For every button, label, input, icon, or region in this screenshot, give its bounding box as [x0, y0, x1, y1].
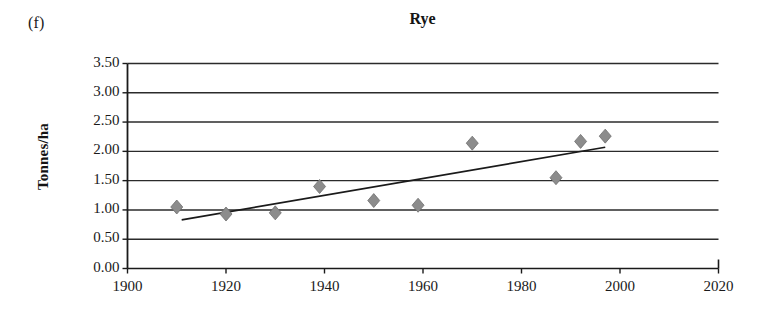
y-tick-label: 0.50	[64, 229, 120, 246]
x-tick-label: 2000	[590, 278, 650, 295]
x-tick-label: 1920	[196, 278, 256, 295]
y-tick-label: 1.00	[64, 200, 120, 217]
x-tick-label: 2020	[689, 278, 749, 295]
data-point-marker	[368, 194, 380, 208]
data-markers-group	[171, 129, 611, 221]
x-tick-label: 1940	[295, 278, 355, 295]
y-tick-label: 1.50	[64, 171, 120, 188]
data-point-marker	[550, 171, 562, 185]
data-point-marker	[220, 207, 232, 221]
y-tick-label: 0.00	[64, 259, 120, 276]
x-tick-label: 1900	[98, 278, 158, 295]
axis-lines-group	[128, 64, 719, 269]
x-tick-label: 1980	[492, 278, 552, 295]
y-tick-label: 2.00	[64, 141, 120, 158]
x-tick-label: 1960	[393, 278, 453, 295]
data-point-marker	[599, 129, 611, 143]
y-tick-label: 3.50	[64, 54, 120, 71]
data-point-marker	[466, 136, 478, 150]
figure-panel: (f) Rye Tonnes/ha 0.000.501.001.502.002.…	[0, 0, 768, 319]
y-tick-label: 3.00	[64, 83, 120, 100]
gridlines-group	[128, 64, 719, 240]
trendline	[182, 147, 606, 220]
y-tick-label: 2.50	[64, 112, 120, 129]
data-point-marker	[575, 134, 587, 148]
data-point-marker	[171, 200, 183, 214]
axis-ticks-group	[123, 64, 719, 274]
data-point-marker	[269, 206, 281, 220]
trendline-group	[182, 147, 606, 220]
data-point-marker	[314, 180, 326, 194]
